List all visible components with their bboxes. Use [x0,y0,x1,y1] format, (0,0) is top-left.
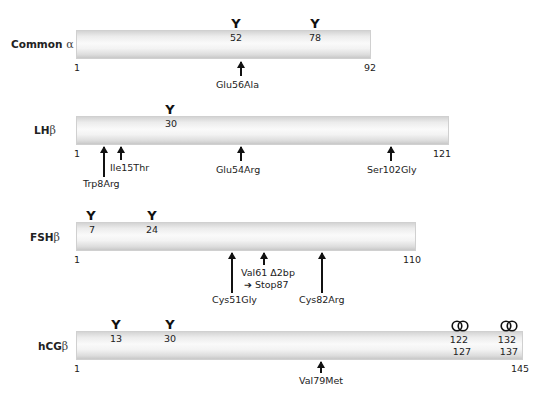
row-label: LHβ [34,124,56,137]
o-glycosylation-icon [499,320,519,332]
glycosylation-position: 30 [159,118,183,129]
n-glycosylation-icon: Y [162,104,178,116]
mutation-label: Val79Met [299,375,343,386]
subunit-greek: α [66,38,73,51]
end-position: 110 [403,254,421,265]
mutation-label: Glu54Arg [216,164,260,175]
o-glycosylation-position: 122 [438,334,468,345]
start-position: 1 [74,62,80,73]
end-position: 121 [433,148,451,159]
subunit-greek: β [62,340,68,353]
subunit-name: LH [34,124,49,136]
arrow-up-icon [240,147,242,161]
arrow-up-icon [263,253,265,265]
n-glycosylation-icon: Y [108,319,124,331]
o-glycosylation-position: 132 [486,334,516,345]
subunit-greek: β [54,231,60,244]
glycosylation-position: 30 [158,333,182,344]
glycosylation-position: 24 [140,224,164,235]
mutation-label: Trp8Arg [83,178,120,189]
n-glycosylation-icon: Y [228,18,244,30]
glycosylation-position: 7 [80,224,104,235]
n-glycosylation-icon: Y [162,319,178,331]
start-position: 1 [74,148,80,159]
end-position: 92 [364,62,376,73]
start-position: 1 [74,363,80,374]
subunit-name: hCG [38,340,62,352]
arrow-up-icon [320,362,322,373]
glycosylation-position: 13 [104,333,128,344]
mutation-label: Glu56Ala [216,79,259,90]
start-position: 1 [74,254,80,265]
mutation-sublabel: ➔ Stop87 [244,279,289,290]
glycosylation-position: 52 [224,32,248,43]
protein-bar [76,116,449,145]
arrow-up-icon [103,147,105,177]
arrow-up-icon [321,253,323,293]
mutation-label: Ile15Thr [110,162,149,173]
n-glycosylation-icon: Y [307,18,323,30]
arrow-up-icon [120,147,122,160]
glycosylation-position: 78 [303,32,327,43]
mutation-label: Val61 Δ2bp [241,267,295,278]
o-glycosylation-icon [450,320,470,332]
n-glycosylation-icon: Y [144,210,160,222]
subunit-name: Common [11,38,63,50]
arrow-up-icon [231,253,233,293]
row-label: hCGβ [38,340,68,353]
o-glycosylation-position: 137 [488,346,518,357]
n-glycosylation-icon: Y [83,210,99,222]
subunit-greek: β [49,124,55,137]
mutation-label: Cys82Arg [299,294,345,305]
protein-bar [76,222,416,251]
arrow-up-icon [240,62,242,76]
end-position: 145 [511,363,529,374]
mutation-label: Ser102Gly [367,164,417,175]
subunit-name: FSH [30,231,54,243]
row-label: Common α [11,38,74,51]
mutation-label: Cys51Gly [212,294,257,305]
o-glycosylation-position: 127 [441,346,471,357]
arrow-up-icon [390,147,392,161]
row-label: FSHβ [30,231,60,244]
